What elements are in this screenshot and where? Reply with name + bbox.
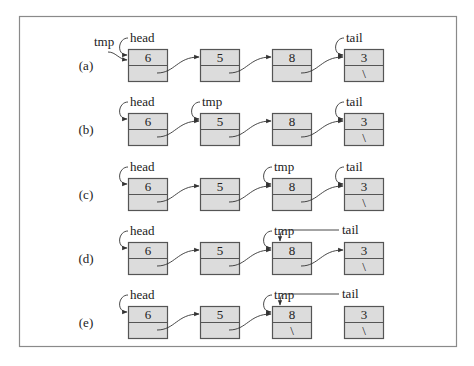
list-node: 8 bbox=[273, 243, 312, 275]
null-pointer-icon: \ bbox=[362, 195, 366, 210]
node-value: 6 bbox=[145, 307, 152, 322]
node-value: 5 bbox=[217, 114, 224, 129]
list-node: 6 bbox=[129, 307, 168, 339]
node-value: 3 bbox=[361, 307, 368, 322]
pointer-label-head: head bbox=[130, 159, 155, 174]
list-node: 3\ bbox=[345, 307, 384, 339]
node-value: 8 bbox=[289, 307, 296, 322]
list-node: 6 bbox=[129, 50, 168, 82]
list-node: 8 bbox=[273, 114, 312, 146]
list-node: 5 bbox=[201, 50, 240, 82]
node-value: 5 bbox=[217, 307, 224, 322]
list-node: 5 bbox=[201, 307, 240, 339]
pointer-label-tmp: tmp bbox=[274, 159, 294, 174]
null-pointer-icon: \ bbox=[362, 130, 366, 145]
pointer-label-tmp: tmp bbox=[94, 34, 114, 49]
node-value: 6 bbox=[145, 243, 152, 258]
node-value: 8 bbox=[289, 114, 296, 129]
pointer-label-tail: tail bbox=[342, 222, 359, 237]
list-node: 3\ bbox=[345, 243, 384, 275]
linked-list-diagram: (a)6583\headtmptail(b)6583\headtmptail(c… bbox=[0, 0, 474, 366]
list-node: 6 bbox=[129, 179, 168, 211]
row-label: (d) bbox=[78, 251, 93, 266]
node-value: 5 bbox=[217, 50, 224, 65]
row-label: (c) bbox=[79, 187, 93, 202]
list-node: 5 bbox=[201, 179, 240, 211]
node-value: 5 bbox=[217, 243, 224, 258]
node-value: 3 bbox=[361, 243, 368, 258]
node-value: 8 bbox=[289, 179, 296, 194]
node-value: 6 bbox=[145, 50, 152, 65]
node-value: 8 bbox=[289, 243, 296, 258]
node-value: 5 bbox=[217, 179, 224, 194]
list-node: 3\ bbox=[345, 114, 384, 146]
null-pointer-icon: \ bbox=[290, 323, 294, 338]
list-node: 8 bbox=[273, 179, 312, 211]
node-value: 3 bbox=[361, 50, 368, 65]
pointer-label-tail: tail bbox=[346, 94, 363, 109]
node-value: 8 bbox=[289, 50, 296, 65]
pointer-label-head: head bbox=[130, 30, 155, 45]
list-node: 5 bbox=[201, 243, 240, 275]
pointer-label-tmp: tmp bbox=[202, 94, 222, 109]
pointer-label-tail: tail bbox=[346, 159, 363, 174]
list-node: 8 bbox=[273, 50, 312, 82]
list-node: 8\ bbox=[273, 307, 312, 339]
pointer-label-tail: tail bbox=[346, 30, 363, 45]
list-node: 3\ bbox=[345, 50, 384, 82]
node-value: 3 bbox=[361, 179, 368, 194]
row-label: (a) bbox=[79, 58, 93, 73]
pointer-label-head: head bbox=[130, 287, 155, 302]
null-pointer-icon: \ bbox=[362, 323, 366, 338]
list-node: 6 bbox=[129, 243, 168, 275]
pointer-label-head: head bbox=[130, 94, 155, 109]
node-value: 6 bbox=[145, 114, 152, 129]
pointer-label-head: head bbox=[130, 223, 155, 238]
node-value: 3 bbox=[361, 114, 368, 129]
list-node: 6 bbox=[129, 114, 168, 146]
null-pointer-icon: \ bbox=[362, 259, 366, 274]
list-node: 5 bbox=[201, 114, 240, 146]
row-label: (e) bbox=[79, 315, 93, 330]
pointer-label-tail: tail bbox=[342, 286, 359, 301]
null-pointer-icon: \ bbox=[362, 66, 366, 81]
row-label: (b) bbox=[78, 122, 93, 137]
node-value: 6 bbox=[145, 179, 152, 194]
list-node: 3\ bbox=[345, 179, 384, 211]
